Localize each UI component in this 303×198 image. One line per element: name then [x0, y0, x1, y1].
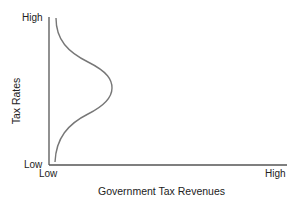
laffer-curve: [55, 18, 112, 162]
y-tick-high: High: [22, 13, 43, 23]
x-tick-high: High: [265, 169, 286, 179]
x-axis-title: Government Tax Revenues: [98, 186, 225, 196]
y-axis-title: Tax Rates: [10, 71, 22, 131]
x-tick-low: Low: [39, 169, 57, 179]
